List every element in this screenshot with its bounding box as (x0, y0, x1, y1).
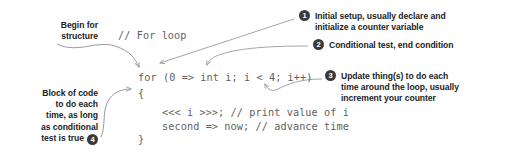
annotation-block-line-5: test is true (41, 133, 84, 143)
annotation-one-line-1: Initial setup, usually declare and (315, 11, 446, 21)
code-line-for-statement: for (0 => int i; i < 4; i++) (138, 71, 313, 85)
annotation-three-line-3: increment your counter (341, 93, 436, 103)
badge-number-3: 3 (325, 70, 336, 81)
annotation-three-line-1: Update thing(s) to do each (341, 71, 448, 81)
annotation-conditional-test: 2 Conditional test, end condition (313, 39, 513, 51)
annotation-block-line-1: Block of code (42, 88, 98, 98)
code-line-comment: // For loop (118, 29, 187, 43)
annotated-code-figure: // For loop for (0 => int i; i < 4; i++)… (0, 0, 515, 153)
badge-number-1: 1 (299, 10, 310, 21)
annotation-block-of-code: Block of code to do each time, as long a… (2, 88, 98, 144)
code-line-advance-time: second => now; // advance time (162, 120, 349, 134)
annotation-two-line-1: Conditional test, end condition (329, 40, 453, 50)
annotation-one-text: Initial setup, usually declare and initi… (315, 10, 446, 33)
annotation-three-text: Update thing(s) to do each time around t… (341, 70, 459, 104)
annotation-block-line-2: to do each (56, 99, 98, 109)
annotation-three-line-2: time around the loop, usually (341, 82, 459, 92)
annotation-begin-line-2: structure (61, 31, 98, 41)
annotation-update-thing: 3 Update thing(s) to do each time around… (325, 70, 515, 104)
annotation-begin-line-1: Begin for (61, 20, 98, 30)
badge-number-4: 4 (87, 134, 98, 145)
annotation-initial-setup: 1 Initial setup, usually declare and ini… (299, 10, 513, 33)
annotation-one-line-2: initialize a counter variable (315, 22, 423, 32)
arrow-begin-to-for (57, 44, 139, 67)
annotation-block-line-3: time, as long (46, 110, 98, 120)
arrow-four-to-open-brace (101, 89, 131, 137)
badge-number-2: 2 (313, 39, 324, 50)
code-open-brace: { (138, 87, 144, 101)
code-close-brace: } (138, 133, 144, 147)
annotation-two-text: Conditional test, end condition (329, 39, 453, 51)
annotation-block-line-4: as conditional (41, 122, 98, 132)
code-line-print: <<< i >>>; // print value of i (162, 106, 349, 120)
annotation-begin-for-structure: Begin for structure (14, 20, 98, 42)
arrow-two-to-condition (207, 46, 308, 65)
